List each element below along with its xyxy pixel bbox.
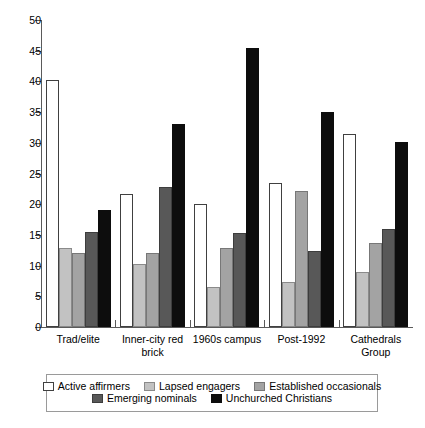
legend-label: Emerging nominals (107, 393, 197, 404)
bar-chart: 05101520253035404550 Trad/eliteInner-cit… (0, 0, 425, 428)
x-axis-label: 1960s campus (190, 333, 264, 346)
bar (120, 194, 133, 327)
legend-item: Active affirmers (43, 381, 130, 392)
legend-item: Established occasionals (254, 381, 381, 392)
bar (72, 253, 85, 327)
bar (146, 253, 159, 327)
y-tick-label: 5 (13, 291, 41, 302)
bar (321, 112, 334, 327)
bar-group (339, 20, 413, 327)
x-axis-line (41, 327, 413, 328)
y-tick-label: 0 (13, 322, 41, 333)
legend-swatch-icon (92, 394, 103, 403)
y-tick-label: 35 (13, 107, 41, 118)
bar (395, 142, 408, 327)
y-tick-label: 40 (13, 76, 41, 87)
y-tick-label: 45 (13, 46, 41, 57)
x-axis-label: Trad/elite (41, 333, 115, 346)
y-tick-label: 30 (13, 138, 41, 149)
legend-label: Established occasionals (269, 381, 381, 392)
legend-item: Unchurched Christians (211, 393, 332, 404)
y-tick-label: 25 (13, 169, 41, 180)
bar (194, 204, 207, 327)
group-separator-tick (264, 320, 265, 328)
group-separator-tick (190, 320, 191, 328)
legend-label: Lapsed engagers (159, 381, 240, 392)
legend-item: Emerging nominals (92, 393, 197, 404)
bar-group (41, 20, 115, 327)
bar (159, 187, 172, 327)
bar (269, 183, 282, 327)
bar (356, 272, 369, 327)
bar (59, 248, 72, 327)
bar (369, 243, 382, 327)
bar (382, 229, 395, 327)
legend: Active affirmersLapsed engagersEstablish… (46, 374, 378, 412)
bar (98, 210, 111, 327)
y-tick-label: 20 (13, 199, 41, 210)
bar (172, 124, 185, 327)
bar (343, 134, 356, 327)
legend-row-top: Active affirmersLapsed engagersEstablish… (51, 381, 373, 392)
legend-item: Lapsed engagers (144, 381, 240, 392)
bar-group (115, 20, 189, 327)
bar (46, 80, 59, 327)
legend-row-bottom: Emerging nominalsUnchurched Christians (51, 393, 373, 404)
bar (133, 264, 146, 327)
x-axis-label: Post-1992 (264, 333, 338, 346)
bar (207, 287, 220, 327)
y-tick-label: 10 (13, 261, 41, 272)
bar (295, 191, 308, 327)
legend-swatch-icon (144, 382, 155, 391)
legend-label: Active affirmers (58, 381, 130, 392)
y-tick-label: 15 (13, 230, 41, 241)
legend-swatch-icon (254, 382, 265, 391)
bar (246, 48, 259, 327)
x-axis-label: Cathedrals Group (339, 333, 413, 359)
bar (220, 248, 233, 327)
plot-area (41, 20, 413, 327)
bar (233, 233, 246, 327)
bar-group (190, 20, 264, 327)
group-separator-tick (339, 320, 340, 328)
group-separator-tick (115, 320, 116, 328)
x-axis-label: Inner-city red brick (115, 333, 189, 359)
legend-swatch-icon (43, 382, 54, 391)
legend-label: Unchurched Christians (226, 393, 332, 404)
bar (85, 232, 98, 327)
legend-swatch-icon (211, 394, 222, 403)
bar (308, 251, 321, 327)
bar (282, 282, 295, 327)
y-tick-label: 50 (13, 15, 41, 26)
bar-group (264, 20, 338, 327)
